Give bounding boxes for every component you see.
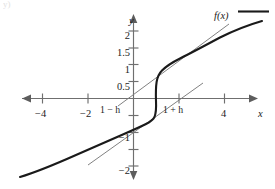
y-tick-label-1-text: 1 xyxy=(125,64,130,75)
x-axis-right-arrow xyxy=(249,95,258,103)
y-tick-label--2-text: −2 xyxy=(119,165,130,176)
annotation-right-h-mark: 1 + h xyxy=(163,99,183,117)
x-tick-label-4: 4 xyxy=(221,103,226,121)
x-tick-label--2: −2 xyxy=(80,103,91,121)
annotation-left-h-mark: 1 − h xyxy=(100,99,120,117)
x-tick-label-4-text: 4 xyxy=(221,108,226,119)
figure-container: y) xyxy=(0,0,275,189)
y-tick-label--2: −2 xyxy=(110,160,130,178)
y-tick-label-1.5-text: 1.5 xyxy=(117,47,130,58)
y-axis-name-text: y xyxy=(129,15,134,26)
x-tick-label--4-text: −4 xyxy=(35,108,46,119)
y-axis-bottom-arrow xyxy=(130,171,138,180)
plot-canvas xyxy=(0,0,275,189)
x-axis-name-text: x xyxy=(258,108,263,119)
annotation-left-h-mark-text: 1 − h xyxy=(100,104,120,115)
x-axis-name: x xyxy=(258,103,263,121)
y-tick-label-1: 1 xyxy=(118,59,130,77)
legend-label-text: f(x) xyxy=(214,10,229,21)
y-tick-label-1.5: 1.5 xyxy=(107,42,130,60)
y-tick-label--1-text: −1 xyxy=(119,132,130,143)
y-tick-label-0.5: 0.5 xyxy=(105,76,130,94)
y-tick-label-2-text: 2 xyxy=(125,30,130,41)
x-tick-label--2-text: −2 xyxy=(80,108,91,119)
axes-group xyxy=(22,14,258,180)
x-tick-label--4: −4 xyxy=(35,103,46,121)
x-axis-left-arrow xyxy=(22,95,31,103)
y-axis-name: y xyxy=(129,10,134,28)
y-tick-label-0.5-text: 0.5 xyxy=(117,81,130,92)
y-tick-label--1: −1 xyxy=(110,127,130,145)
annotation-right-h-mark-text: 1 + h xyxy=(163,104,183,115)
legend-label: f(x) xyxy=(214,5,229,23)
